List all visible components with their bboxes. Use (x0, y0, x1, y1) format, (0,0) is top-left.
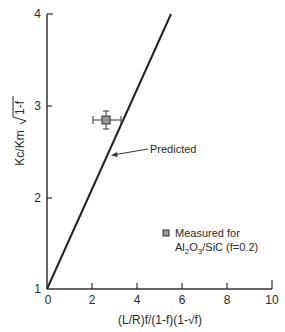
predicted-label: Predicted (150, 143, 196, 155)
legend-line-1: Measured for (175, 227, 240, 239)
x-tick-0: 0 (45, 293, 52, 307)
y-tick-3: 3 (34, 99, 41, 113)
x-tick-10: 10 (265, 293, 279, 307)
y-tick-1: 1 (34, 282, 41, 296)
arrow-head-icon (111, 152, 118, 157)
legend-line-2: Al2O3/SiC (f=0.2) (175, 241, 258, 256)
legend-marker-icon (163, 230, 169, 236)
y-tick-2: 2 (34, 191, 41, 205)
y-tick-4: 4 (34, 7, 41, 21)
x-tick-6: 6 (179, 293, 186, 307)
svg-text:1-f: 1-f (13, 100, 27, 115)
y-axis-label: Kc/Km 1-f (13, 96, 27, 166)
measured-point (93, 111, 121, 129)
x-axis-label: (L/R)f/(1-f)(1-√f) (118, 313, 202, 327)
x-tick-8: 8 (224, 293, 231, 307)
x-tick-4: 4 (134, 293, 141, 307)
annotation-arrow (113, 149, 148, 155)
chart: 4 3 2 1 0 2 4 6 8 10 (L/R)f/(1-f)(1-√f) … (0, 0, 285, 332)
legend: Measured for Al2O3/SiC (f=0.2) (163, 227, 258, 256)
x-tick-2: 2 (89, 293, 96, 307)
svg-text:Kc/Km: Kc/Km (13, 130, 27, 165)
